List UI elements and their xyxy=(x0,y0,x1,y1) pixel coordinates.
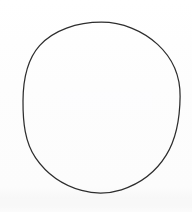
drawing-canvas: Hand-drawn circle outline on white paper xyxy=(0,0,192,212)
shape-layer xyxy=(0,0,192,212)
circle-outline-path xyxy=(23,22,180,193)
circle-svg xyxy=(0,0,192,212)
